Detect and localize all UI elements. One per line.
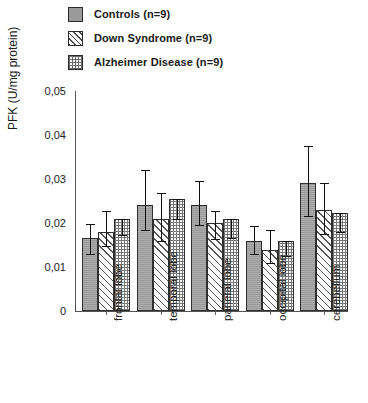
error-bar-cap-lower: [250, 254, 259, 255]
error-bar: [161, 193, 162, 241]
x-tick-label: temporal lobe: [167, 251, 179, 321]
error-bar: [145, 170, 146, 229]
error-bar-cap-lower: [336, 232, 345, 233]
x-tick-label: frontal lobe: [112, 264, 124, 321]
legend-label-alzheimer: Alzheimer Disease (n=9): [94, 56, 223, 68]
error-bar-cap-lower: [118, 235, 127, 236]
error-bar: [122, 219, 123, 236]
error-bar-cap-lower: [141, 230, 150, 231]
error-bar-cap-upper: [250, 226, 259, 227]
error-bar: [90, 224, 91, 253]
error-bar-cap-upper: [266, 230, 275, 231]
legend-item-controls: Controls (n=9): [68, 2, 223, 26]
crosshatch-swatch-icon: [68, 55, 83, 70]
error-bar-cap-upper: [141, 170, 150, 171]
x-tick-label: parietal lobe: [221, 258, 233, 321]
error-bar-cap-lower: [195, 225, 204, 226]
y-tick-label: 0: [60, 305, 66, 317]
legend-item-alzheimer: Alzheimer Disease (n=9): [68, 50, 223, 74]
error-bar-cap-lower: [86, 254, 95, 255]
error-bar-cap-upper: [118, 219, 127, 220]
error-bar-cap-lower: [227, 238, 236, 239]
y-axis-title: PFK (U/mg protein): [6, 27, 20, 130]
chart-legend: Controls (n=9) Down Syndrome (n=9) Alzhe…: [68, 2, 223, 74]
diagonal-hatch-swatch-icon: [68, 31, 83, 46]
pfk-bar-chart: Controls (n=9) Down Syndrome (n=9) Alzhe…: [0, 0, 368, 403]
error-bar: [324, 183, 325, 234]
error-bar: [270, 230, 271, 263]
x-tick-mark: [161, 311, 162, 315]
error-bar-cap-lower: [304, 216, 313, 217]
error-bar: [340, 213, 341, 231]
error-bar: [215, 211, 216, 240]
error-bar-cap-lower: [102, 246, 111, 247]
error-bar-cap-upper: [227, 219, 236, 220]
error-bar-cap-upper: [195, 181, 204, 182]
error-bar: [254, 226, 255, 254]
error-bar-cap-upper: [336, 213, 345, 214]
error-bar-cap-upper: [102, 211, 111, 212]
error-bar-cap-upper: [211, 211, 220, 212]
error-bar-cap-upper: [86, 224, 95, 225]
error-bar: [231, 219, 232, 239]
x-tick-mark: [270, 311, 271, 315]
error-bar-cap-lower: [157, 241, 166, 242]
y-tick-label: 0,04: [45, 129, 66, 141]
x-tick-mark: [324, 311, 325, 315]
y-tick-label: 0,05: [45, 85, 66, 97]
y-tick-label: 0,03: [45, 173, 66, 185]
y-tick-label: 0,02: [45, 217, 66, 229]
error-bar-cap-lower: [173, 219, 182, 220]
solid-gray-swatch-icon: [68, 7, 83, 22]
x-tick-label: occipital lobe: [276, 255, 288, 321]
y-tick-label: 0,01: [45, 261, 66, 273]
error-bar-cap-upper: [304, 146, 313, 147]
x-tick-mark: [106, 311, 107, 315]
error-bar-cap-lower: [320, 234, 329, 235]
legend-label-controls: Controls (n=9): [94, 8, 170, 20]
legend-item-down-syndrome: Down Syndrome (n=9): [68, 26, 223, 50]
error-bar-cap-lower: [266, 263, 275, 264]
error-bar: [106, 211, 107, 246]
error-bar-cap-lower: [211, 239, 220, 240]
y-axis-line: [75, 91, 76, 312]
error-bar: [199, 181, 200, 225]
error-bar-cap-upper: [320, 183, 329, 184]
x-tick-label: cerebellum: [330, 265, 342, 321]
error-bar: [308, 146, 309, 216]
error-bar-cap-upper: [173, 199, 182, 200]
legend-label-down-syndrome: Down Syndrome (n=9): [94, 32, 212, 44]
error-bar-cap-upper: [157, 193, 166, 194]
error-bar-cap-upper: [282, 241, 291, 242]
error-bar: [177, 199, 178, 220]
plot-area: 0,050,040,030,020,010 frontal lobetempor…: [76, 91, 348, 311]
x-tick-mark: [215, 311, 216, 315]
